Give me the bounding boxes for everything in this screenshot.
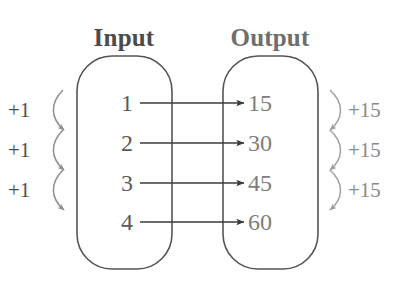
input-value-3: 3: [112, 171, 142, 195]
output-box: [223, 56, 318, 269]
left-operation-3: +1: [8, 180, 52, 201]
right-operation-2: +15: [348, 140, 408, 161]
input-value-1: 1: [112, 91, 142, 115]
right-step-arrow-3: [330, 170, 341, 210]
output-value-3: 45: [248, 171, 296, 195]
left-step-arrow-3: [53, 170, 64, 210]
function-machine-diagram: Input Output 1 2 3 4 15 30 45 60 +1 +1 +…: [0, 0, 417, 283]
right-step-arrow-1: [330, 90, 341, 130]
left-operation-2: +1: [8, 140, 52, 161]
right-operation-3: +15: [348, 180, 408, 201]
right-step-arrow-2: [330, 130, 341, 170]
input-value-2: 2: [112, 131, 142, 155]
left-step-arrow-1: [53, 90, 64, 130]
input-column-header: Input: [76, 24, 172, 52]
right-operation-1: +15: [348, 100, 408, 121]
input-box: [77, 56, 172, 269]
output-value-1: 15: [248, 91, 296, 115]
output-column-header: Output: [222, 24, 318, 52]
output-value-2: 30: [248, 131, 296, 155]
input-value-4: 4: [112, 210, 142, 234]
left-operation-1: +1: [8, 100, 52, 121]
left-step-arrow-2: [53, 130, 64, 170]
output-value-4: 60: [248, 210, 296, 234]
